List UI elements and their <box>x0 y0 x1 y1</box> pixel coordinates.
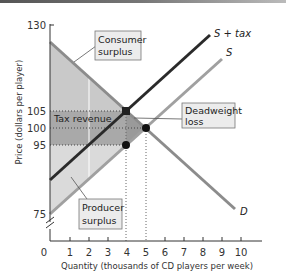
y-tick-label-95: 95 <box>33 140 46 151</box>
y-tick-label-130: 130 <box>27 20 46 31</box>
x-tick-label-8: 8 <box>200 247 206 258</box>
consumer-surplus-leader <box>74 46 96 62</box>
x-tick-label-7: 7 <box>181 247 187 258</box>
x-tick-label-0: 0 <box>41 247 47 258</box>
x-tick-label-1: 1 <box>67 247 73 258</box>
point-4-105-square <box>122 107 130 115</box>
y-tick-label-105: 105 <box>27 106 46 117</box>
point-4-95 <box>122 141 130 149</box>
point-5-100 <box>142 124 150 132</box>
supply-plus-tax-label: S + tax <box>214 28 251 39</box>
consumer-surplus-label-line2: surplus <box>98 46 133 57</box>
supply-label: S <box>226 47 233 58</box>
tax-incidence-chart: 130 105 100 95 75 0 1 2 3 4 5 6 7 8 9 10… <box>0 0 286 280</box>
demand-label: D <box>240 206 248 217</box>
x-axis-title: Quantity (thousands of CD players per we… <box>61 261 253 271</box>
y-tick-label-75: 75 <box>33 209 46 220</box>
deadweight-loss-leader <box>134 118 182 119</box>
x-tick-label-5: 5 <box>143 247 149 258</box>
producer-surplus-label-line2: surplus <box>82 215 117 226</box>
x-tick-label-6: 6 <box>162 247 168 258</box>
tax-revenue-label: Tax revenue <box>53 113 112 124</box>
y-tick-label-100: 100 <box>27 123 46 134</box>
axis-break-2 <box>46 222 54 228</box>
x-tick-label-2: 2 <box>86 247 92 258</box>
x-tick-label-4: 4 <box>124 247 130 258</box>
producer-surplus-label-line1: Producer <box>82 202 124 213</box>
deadweight-loss-label-line2: loss <box>185 116 203 127</box>
x-tick-label-10: 10 <box>235 247 248 258</box>
x-tick-label-3: 3 <box>105 247 111 258</box>
y-axis-title: Price (dollars per player) <box>14 60 24 165</box>
x-tick-label-9: 9 <box>219 247 225 258</box>
deadweight-loss-label-line1: Deadweight <box>185 105 242 116</box>
consumer-surplus-label-line1: Consumer <box>98 34 147 45</box>
x-ticks <box>70 237 241 241</box>
